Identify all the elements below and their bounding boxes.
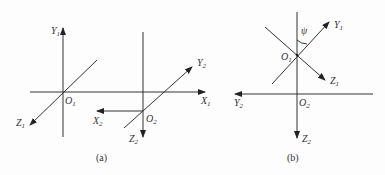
label-x2: X2 [92, 115, 103, 128]
caption-b: (b) [287, 152, 299, 164]
label-y2-b: Y2 [234, 97, 244, 110]
label-z2: Z2 [129, 133, 139, 146]
label-y2: Y2 [197, 57, 207, 70]
label-o1-b: O1 [281, 51, 292, 64]
label-y1-b: Y1 [334, 19, 343, 32]
panel-a: Y1 O1 Z1 X1 Y2 O2 X2 Z2 (a) [16, 25, 211, 164]
label-z1: Z1 [16, 117, 25, 130]
axis-y2 [124, 67, 192, 128]
angle-psi-arc [297, 40, 307, 44]
panel-b: ψ Y1 O1 Z1 Y2 O2 Z2 (b) [234, 12, 373, 164]
diagram-svg: Y1 O1 Z1 X1 Y2 O2 X2 Z2 (a) ψ Y1 O1 [0, 0, 385, 175]
label-o1: O1 [65, 95, 76, 108]
coordinate-frames-diagram: Y1 O1 Z1 X1 Y2 O2 X2 Z2 (a) ψ Y1 O1 [0, 0, 385, 175]
caption-a: (a) [96, 152, 107, 164]
label-z2-b: Z2 [302, 133, 312, 146]
label-z1-b: Z1 [330, 75, 339, 88]
label-o2: O2 [146, 113, 157, 126]
origin-o1-dot [296, 54, 299, 57]
label-y1: Y1 [51, 25, 60, 38]
label-x1: X1 [200, 95, 211, 108]
label-psi: ψ [301, 25, 308, 36]
axis-z1-b [265, 27, 325, 80]
label-o2-b: O2 [299, 97, 310, 110]
